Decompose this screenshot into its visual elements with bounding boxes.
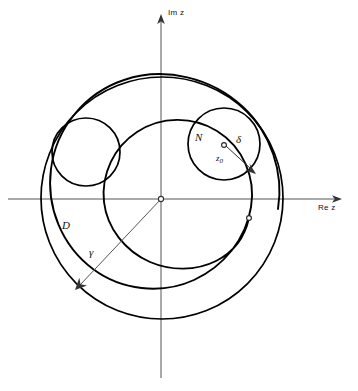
real-axis-label: Re z	[318, 203, 336, 212]
gamma-arrow-line	[80, 199, 161, 285]
figure-canvas: Im z Re z D N γ δ z0	[0, 0, 358, 391]
imaginary-axis-label: Im z	[168, 8, 184, 17]
origin-point-marker	[158, 196, 163, 201]
neighborhood-label-N: N	[195, 131, 202, 143]
z0-label-subscript: 0	[220, 157, 224, 165]
delta-radius-arrow	[226, 146, 256, 174]
z0-label: z0	[216, 147, 223, 165]
interior-circle-left	[52, 118, 120, 186]
spiral-curve	[50, 74, 279, 289]
axes-group	[8, 14, 342, 378]
spiral-endpoint-marker	[247, 216, 252, 221]
diagram-svg	[0, 0, 358, 391]
gamma-label: γ	[89, 246, 93, 258]
domain-label-D: D	[62, 219, 70, 231]
gamma-radius-arrow	[75, 199, 161, 290]
z0-label-base: z	[216, 153, 220, 163]
delta-label: δ	[236, 133, 241, 145]
delta-arrow-line	[226, 146, 251, 169]
